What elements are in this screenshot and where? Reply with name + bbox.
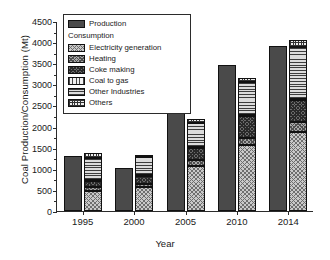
segment-heating-2010: [238, 138, 256, 145]
consumption-bar-2014[interactable]: [289, 40, 307, 211]
legend-label-production: Production: [89, 20, 126, 28]
production-segment-2010: [218, 65, 236, 211]
legend-item-heating: Heating: [68, 54, 186, 64]
legend-item-coal-to-gas: Coal to gas: [68, 76, 186, 86]
production-swatch: [68, 20, 85, 28]
consumption-bar-1995[interactable]: [84, 153, 102, 211]
legend-label-4: Other Industries: [89, 88, 144, 96]
x-axis-title: Year: [0, 238, 330, 249]
legend-label-2: Coke making: [89, 66, 135, 74]
segment-other-industries-2014: [289, 47, 307, 99]
legend-item-other-industries: Other Industries: [68, 87, 186, 97]
consumption-bar-2005[interactable]: [187, 119, 205, 211]
x-tick-label-2014: 2014: [278, 216, 299, 227]
production-segment-2005: [167, 111, 185, 211]
segment-electricity-generation-1995: [84, 191, 102, 211]
production-bar-2014[interactable]: [269, 46, 287, 211]
segment-electricity-generation-2010: [238, 145, 256, 211]
legend-label-0: Electricity generation: [89, 44, 161, 52]
x-tick-mark-2005: [186, 211, 187, 215]
y-tick-minor-750: [54, 180, 57, 181]
y-tick-mark-2000: [53, 128, 58, 129]
x-tick-label-2000: 2000: [124, 216, 145, 227]
segment-others-2005: [187, 119, 205, 123]
segment-heating-2014: [289, 122, 307, 132]
y-tick-minor-2250: [54, 117, 57, 118]
legend-item-others: Others: [68, 98, 186, 108]
segment-other-industries-2010: [238, 82, 256, 114]
legend-label-5: Others: [89, 99, 112, 107]
segment-other-industries-2000: [135, 157, 153, 175]
coke-making-swatch: [68, 66, 85, 74]
legend-label-3: Coal to gas: [89, 77, 128, 85]
legend-consumption-header: Consumption: [68, 32, 186, 42]
segment-other-industries-1995: [84, 158, 102, 179]
consumption-bar-2000[interactable]: [135, 155, 153, 211]
production-segment-2000: [115, 168, 133, 211]
chart-container: Coal Production/Consumption (Mt) 0500100…: [0, 0, 330, 260]
x-tick-mark-2000: [134, 211, 135, 215]
y-tick-mark-0: [53, 212, 58, 213]
segment-heating-1995: [84, 187, 102, 191]
x-tick-mark-1995: [83, 211, 84, 215]
electricity-swatch: [68, 44, 85, 52]
segment-electricity-generation-2000: [135, 187, 153, 211]
coal-to-gas-swatch: [68, 77, 85, 85]
x-tick-label-1995: 1995: [72, 216, 93, 227]
y-tick-mark-2500: [53, 106, 58, 107]
production-bar-2000[interactable]: [115, 168, 133, 211]
y-tick-mark-4500: [53, 22, 58, 23]
y-tick-minor-3750: [54, 54, 57, 55]
segment-others-1995: [84, 153, 102, 158]
y-tick-mark-1500: [53, 149, 58, 150]
segment-electricity-generation-2005: [187, 166, 205, 211]
segment-heating-2000: [135, 184, 153, 187]
segment-others-2010: [238, 78, 256, 82]
y-tick-minor-2750: [54, 96, 57, 97]
segment-others-2000: [135, 155, 153, 158]
production-bar-2010[interactable]: [218, 65, 236, 211]
legend-item-electricity-generation: Electricity generation: [68, 43, 186, 53]
x-tick-mark-2014: [288, 211, 289, 215]
y-tick-mark-3000: [53, 85, 58, 86]
x-tick-label-2010: 2010: [226, 216, 247, 227]
x-tick-label-2005: 2005: [175, 216, 196, 227]
segment-coke-making-2005: [187, 148, 205, 161]
segment-coke-making-2010: [238, 116, 256, 138]
chart-legend: Production Consumption Electricity gener…: [63, 14, 191, 114]
production-segment-2014: [269, 46, 287, 211]
y-tick-mark-3500: [53, 64, 58, 65]
y-tick-mark-4000: [53, 43, 58, 44]
legend-item-coke-making: Coke making: [68, 65, 186, 75]
y-tick-minor-1750: [54, 138, 57, 139]
y-axis-title: Coal Production/Consumption (Mt): [19, 10, 30, 210]
production-bar-2005[interactable]: [167, 111, 185, 211]
y-tick-mark-500: [53, 191, 58, 192]
segment-coke-making-2000: [135, 176, 153, 184]
y-tick-minor-250: [54, 201, 57, 202]
segment-other-industries-2005: [187, 123, 205, 147]
production-segment-1995: [64, 156, 82, 211]
other-industries-swatch: [68, 88, 85, 96]
segment-coke-making-2014: [289, 100, 307, 122]
legend-item-list: Electricity generationHeatingCoke making…: [68, 43, 186, 108]
heating-swatch: [68, 55, 85, 63]
y-tick-minor-3250: [54, 75, 57, 76]
legend-label-1: Heating: [89, 55, 116, 63]
segment-coke-making-1995: [84, 181, 102, 187]
y-tick-minor-1250: [54, 159, 57, 160]
production-bar-1995[interactable]: [64, 156, 82, 211]
y-tick-mark-1000: [53, 170, 58, 171]
y-tick-minor-4250: [54, 33, 57, 34]
legend-item-production: Production: [68, 19, 186, 29]
segment-heating-2005: [187, 160, 205, 165]
consumption-bar-2010[interactable]: [238, 78, 256, 211]
others-swatch: [68, 99, 85, 107]
segment-electricity-generation-2014: [289, 132, 307, 211]
x-tick-mark-2010: [237, 211, 238, 215]
segment-others-2014: [289, 40, 307, 46]
